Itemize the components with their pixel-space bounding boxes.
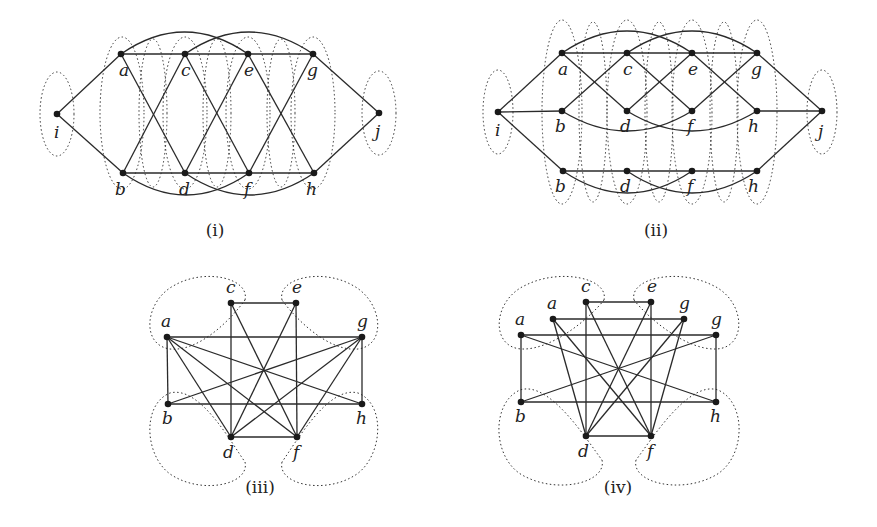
vertex-g xyxy=(359,334,366,341)
vertex-label: g xyxy=(751,59,762,79)
arc-edge-a-e xyxy=(121,32,248,54)
edge-i-a xyxy=(498,53,562,112)
vertex-e xyxy=(648,299,655,306)
vertex-label: f xyxy=(645,441,656,461)
vertex-f xyxy=(246,170,253,177)
vertex-d xyxy=(624,108,631,115)
partition-ellipse xyxy=(645,22,673,202)
edge-a2-d xyxy=(553,319,586,436)
vertex-c xyxy=(624,50,631,57)
vertex-d xyxy=(182,170,189,177)
vertex-b xyxy=(559,108,566,115)
vertex-c xyxy=(228,300,235,307)
partition-ellipse xyxy=(579,22,607,202)
vertex-a xyxy=(118,51,125,58)
vertex-a2 xyxy=(550,316,557,323)
panel-ii: acegibdfhjbdfh(ii) xyxy=(483,20,837,240)
vertex-g xyxy=(754,50,761,57)
vertex-b2 xyxy=(560,168,567,175)
vertex-b xyxy=(120,170,127,177)
edge-i-b2 xyxy=(498,112,563,171)
vertex-a xyxy=(518,332,525,339)
vertex-label: i xyxy=(54,122,59,142)
edge-a-b xyxy=(167,337,168,404)
vertex-label: d xyxy=(179,179,190,199)
vertex-label: d xyxy=(578,441,589,461)
vertex-j xyxy=(376,110,383,117)
vertex-g2 xyxy=(681,316,688,323)
vertex-g xyxy=(310,51,317,58)
edge-e-f xyxy=(296,303,297,437)
vertex-label: c xyxy=(623,59,633,79)
vertex-label: c xyxy=(226,277,236,297)
vertex-e xyxy=(689,50,696,57)
vertex-d2 xyxy=(624,168,631,175)
vertex-label: a xyxy=(119,60,129,80)
edge-a-d xyxy=(167,337,231,437)
vertex-b xyxy=(518,399,525,406)
vertex-g xyxy=(713,332,720,339)
edge-g-j xyxy=(313,54,379,113)
edge-a-f xyxy=(167,337,297,437)
vertex-h xyxy=(713,399,720,406)
vertex-label: g xyxy=(679,293,690,313)
vertex-label: g xyxy=(711,309,722,329)
panel-iv: ceagagbhdf(iv) xyxy=(499,276,739,497)
graph-figure: acegijbdfh(i) acegibdfhjbdfh(ii) ceagbhd… xyxy=(0,0,877,527)
vertex-c xyxy=(182,51,189,58)
vertex-label: h xyxy=(356,408,367,428)
vertex-label: j xyxy=(371,121,381,141)
vertex-label: i xyxy=(495,120,500,140)
edge-h-j xyxy=(314,113,379,173)
vertex-label: e xyxy=(244,60,254,80)
vertex-label: e xyxy=(688,59,698,79)
vertex-f xyxy=(689,108,696,115)
vertex-label: j xyxy=(814,121,824,141)
edge-a2-f xyxy=(553,319,651,436)
panel-caption: (i) xyxy=(206,220,225,240)
vertex-label: g xyxy=(357,311,368,331)
vertex-label: e xyxy=(647,276,657,296)
vertex-label: f xyxy=(242,179,253,199)
panel-iii: ceagbhdf(iii) xyxy=(150,276,378,497)
panel-caption: (iii) xyxy=(245,477,275,497)
vertex-d xyxy=(583,433,590,440)
vertex-e xyxy=(293,300,300,307)
vertex-e xyxy=(245,51,252,58)
vertex-label: h xyxy=(306,179,317,199)
vertex-label: e xyxy=(292,277,302,297)
vertex-label: b xyxy=(555,116,566,136)
edge-i-b xyxy=(498,111,562,112)
vertex-label: h xyxy=(710,406,721,426)
vertex-h2 xyxy=(754,168,761,175)
edge-i-b xyxy=(57,114,123,173)
vertex-c xyxy=(583,299,590,306)
vertex-label: c xyxy=(581,276,591,296)
vertex-a xyxy=(559,50,566,57)
vertex-label: b xyxy=(162,408,173,428)
vertex-label: a xyxy=(558,59,568,79)
vertex-label: b xyxy=(515,406,526,426)
edge-g2-d xyxy=(586,319,684,436)
vertex-label: d xyxy=(620,116,631,136)
panel-caption: (iv) xyxy=(604,477,632,497)
edge-g-f xyxy=(297,337,362,437)
vertex-b xyxy=(165,401,172,408)
vertex-j xyxy=(819,108,826,115)
partition-ellipse xyxy=(710,22,738,202)
arc-edge-c-g xyxy=(185,32,313,54)
vertex-label: d xyxy=(223,442,234,462)
vertex-f xyxy=(294,434,301,441)
vertex-d xyxy=(228,434,235,441)
vertex-f2 xyxy=(689,168,696,175)
edge-g-j xyxy=(757,53,822,111)
vertex-label: a xyxy=(515,309,525,329)
vertex-label: b xyxy=(555,176,566,196)
vertex-label: a xyxy=(547,293,557,313)
vertex-h xyxy=(754,108,761,115)
vertex-i xyxy=(54,111,61,118)
vertex-h xyxy=(359,401,366,408)
vertex-label: g xyxy=(307,60,318,80)
edge-i-a xyxy=(57,54,121,114)
vertex-label: h xyxy=(748,116,759,136)
